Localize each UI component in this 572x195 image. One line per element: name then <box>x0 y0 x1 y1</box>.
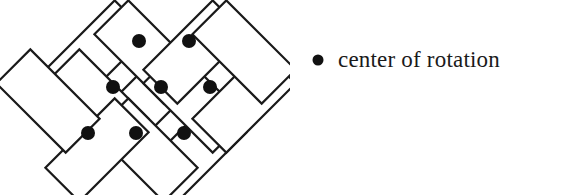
rotation-center-dot <box>154 80 168 94</box>
rotation-center-dot <box>203 80 217 94</box>
figure-root: center of rotation <box>0 0 572 195</box>
rotation-center-dot <box>132 34 146 48</box>
filled-circle-icon <box>312 54 324 66</box>
rotation-center-dot <box>81 126 95 140</box>
rotation-center-dot <box>129 126 143 140</box>
rotation-center-dot <box>177 126 191 140</box>
rotation-center-dot <box>182 34 196 48</box>
legend-label: center of rotation <box>338 48 500 71</box>
rotation-center-dot <box>106 80 120 94</box>
legend: center of rotation <box>312 48 500 71</box>
tiling-rectangles-group <box>0 0 290 195</box>
herringbone-tiling-diagram <box>0 0 290 195</box>
